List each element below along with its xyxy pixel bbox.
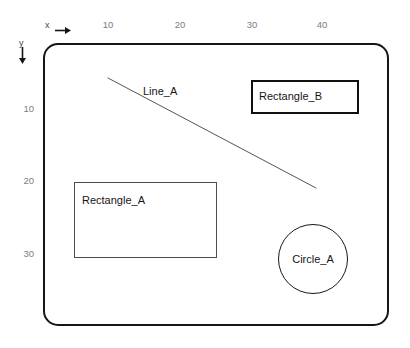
line-a-label: Line_A [143,86,177,97]
x-axis-label: x [45,20,50,30]
x-tick-10: 10 [103,19,114,30]
y-tick-10: 10 [23,103,34,114]
x-tick-30: 30 [247,19,258,30]
circle-a-label: Circle_A [292,254,334,265]
y-tick-20: 20 [23,175,34,186]
diagram-canvas: x 10 20 30 40 y 10 20 30 Line_A Rectangl… [0,0,410,348]
right-arrow-icon [55,21,71,39]
down-arrow-icon [18,47,27,68]
y-tick-30: 30 [23,248,34,259]
rectangle-b-label: Rectangle_B [259,91,322,102]
x-tick-20: 20 [175,19,186,30]
x-tick-40: 40 [317,19,328,30]
rectangle-a-label: Rectangle_A [82,195,145,206]
